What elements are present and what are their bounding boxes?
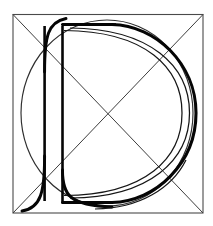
letter-construction-diagram: [0, 0, 213, 226]
letter-construction-figure: Constructed letter D D Geometric constru…: [0, 0, 213, 226]
